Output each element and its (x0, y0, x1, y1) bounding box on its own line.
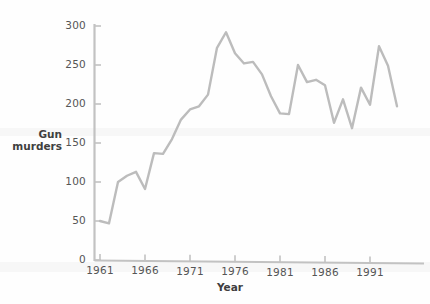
x-tick-label: 1991 (350, 266, 390, 278)
data-series-line (100, 32, 397, 223)
axes-group (95, 24, 425, 264)
x-tick-label: 1981 (260, 266, 300, 278)
x-tick-label: 1971 (170, 265, 210, 277)
x-tick-label: 1976 (215, 265, 255, 277)
x-tick-label: 1961 (80, 264, 120, 276)
y-tick-label: 300 (52, 19, 86, 31)
gun-murders-line-chart: Gun murders Year 050100150200250300 1961… (0, 0, 430, 304)
y-tick-label: 100 (52, 175, 86, 187)
x-tick-label: 1966 (125, 264, 165, 276)
y-tick-label: 200 (52, 97, 86, 109)
y-tick-label: 50 (52, 214, 86, 226)
x-tick-label: 1986 (305, 266, 345, 278)
x-axis-title: Year (200, 281, 260, 293)
x-axis-line (95, 261, 425, 264)
y-tick-label: 250 (52, 58, 86, 70)
y-tick-label: 150 (52, 136, 86, 148)
